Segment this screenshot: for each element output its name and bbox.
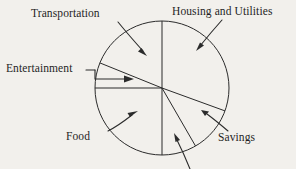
pie-chart-figure: Transportation Housing and Utilities Ent…: [0, 0, 296, 169]
slice-label-housing-and-utilities: Housing and Utilities: [172, 6, 272, 18]
paper-background: [0, 0, 296, 169]
slice-label-food: Food: [66, 131, 90, 143]
slice-label-transportation: Transportation: [31, 8, 100, 20]
pie-chart-canvas: [0, 0, 296, 169]
slice-label-savings: Savings: [218, 132, 255, 144]
slice-label-entertainment: Entertainment: [6, 63, 72, 75]
